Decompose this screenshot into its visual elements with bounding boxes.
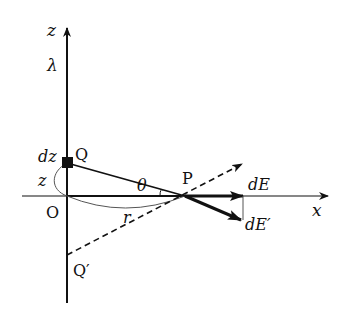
theta-label: θ <box>137 176 147 195</box>
Q-label: Q <box>75 145 88 164</box>
x-axis-label: x <box>312 200 322 220</box>
r-label: r <box>123 208 132 227</box>
lambda-label: λ <box>46 55 58 75</box>
z-length-label: z <box>37 171 47 190</box>
P-label: P <box>182 169 193 188</box>
O-label: O <box>46 203 59 222</box>
Q-prime-label: Q′ <box>73 261 90 280</box>
dE-label: dE <box>248 175 270 194</box>
dz-label: dz <box>38 147 57 166</box>
dE-prime-label: dE′ <box>245 215 271 234</box>
line-QP <box>67 163 185 196</box>
charge-element-square <box>62 157 73 168</box>
diagram-canvas: z λ dz Q z O θ P r dE x dE′ Q′ <box>0 0 345 318</box>
dE-prime-arrow <box>185 196 241 220</box>
z-axis-label: z <box>46 20 57 40</box>
